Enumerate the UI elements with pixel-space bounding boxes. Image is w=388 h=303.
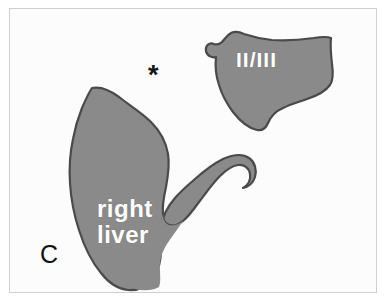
region-right-liver-shape [70, 88, 256, 291]
anatomical-diagram [0, 0, 388, 303]
panel-letter-label: C [40, 242, 58, 267]
asterisk-marker-icon: * [148, 62, 159, 89]
region-label-right-liver: right liver [97, 196, 153, 247]
region-label-segment-ii-iii: II/III [236, 49, 277, 71]
figure-panel: II/III right liver * C [0, 0, 388, 303]
region-segment-ii-iii-shape [206, 32, 333, 130]
